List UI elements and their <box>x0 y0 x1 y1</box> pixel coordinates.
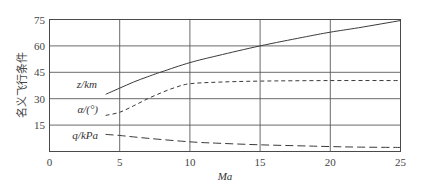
curve-q-pressure <box>106 134 401 147</box>
series-label-alpha: α/(°) <box>77 103 98 116</box>
y-tick-label: 15 <box>34 119 46 131</box>
curve-alpha-angle <box>106 81 401 116</box>
y-axis-label: 名义飞行条件 <box>15 52 29 118</box>
x-tick-labels: 0510152025 <box>47 156 407 168</box>
x-tick-label: 0 <box>47 156 53 168</box>
x-tick-label: 10 <box>184 156 196 168</box>
x-tick-label: 25 <box>395 156 407 168</box>
x-tick-label: 5 <box>117 156 123 168</box>
series-label-z: z/km <box>76 78 97 90</box>
y-tick-labels: 1530456075 <box>34 14 46 132</box>
series-label-q: q/kPa <box>72 129 98 141</box>
flight-conditions-chart: 0510152025 1530456075 z/km α/(°) q/kPa M… <box>0 0 422 189</box>
grid-lines <box>50 20 401 152</box>
y-tick-label: 30 <box>34 93 46 105</box>
curves <box>106 21 401 148</box>
y-tick-label: 75 <box>34 14 46 26</box>
x-tick-label: 20 <box>325 156 337 168</box>
curve-z-altitude <box>106 21 401 95</box>
x-axis-label: Ma <box>217 170 233 182</box>
y-tick-label: 60 <box>34 40 46 52</box>
y-tick-label: 45 <box>34 66 46 78</box>
plot-frame <box>50 20 401 152</box>
x-tick-label: 15 <box>255 156 267 168</box>
